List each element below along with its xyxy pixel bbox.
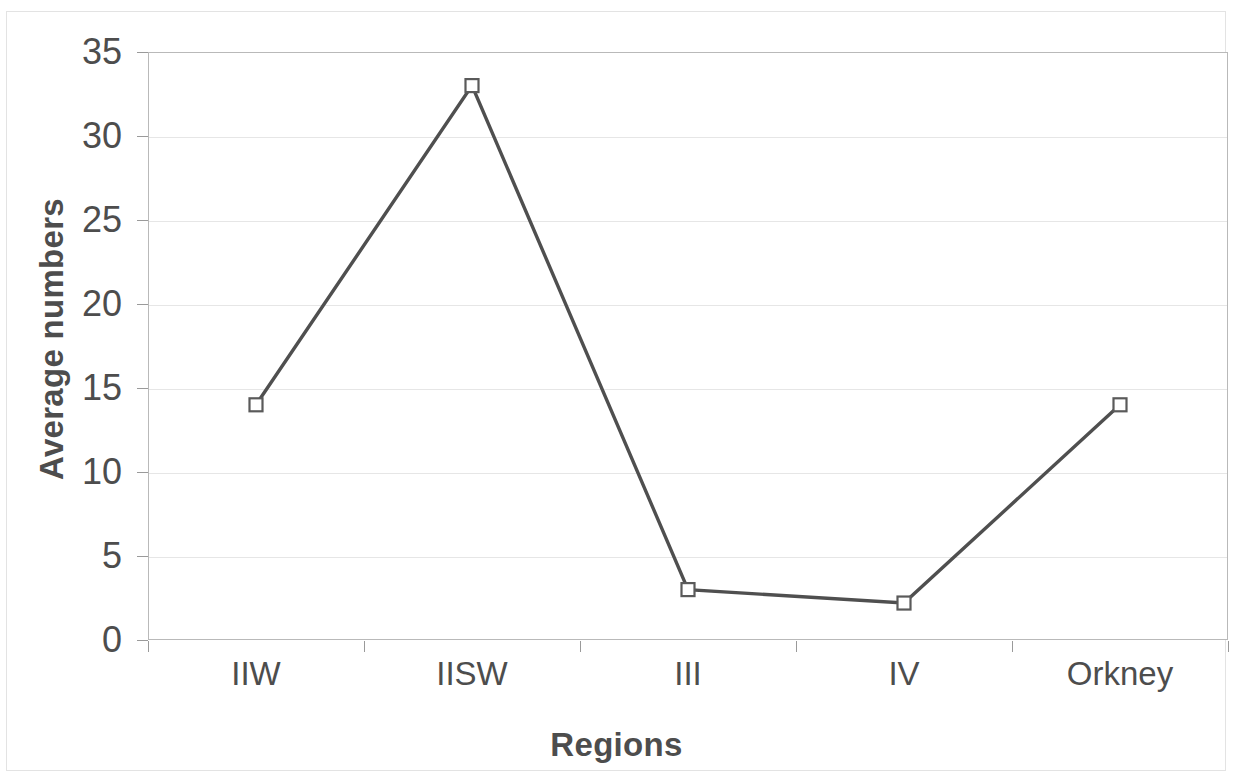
y-tick-mark <box>137 220 148 221</box>
y-tick-label: 35 <box>12 31 122 73</box>
y-tick-label: 25 <box>12 199 122 241</box>
plot-area <box>148 52 1228 640</box>
y-tick-mark <box>137 136 148 137</box>
x-tick-label: IV <box>888 655 919 693</box>
y-tick-label: 5 <box>12 535 122 577</box>
gridline <box>149 137 1227 138</box>
x-tick-mark <box>364 641 365 652</box>
gridline <box>149 473 1227 474</box>
gridline <box>149 305 1227 306</box>
x-tick-mark <box>1228 641 1229 652</box>
y-tick-mark <box>137 52 148 53</box>
y-tick-label: 15 <box>12 367 122 409</box>
x-tick-mark <box>580 641 581 652</box>
y-tick-mark <box>137 472 148 473</box>
y-tick-label: 10 <box>12 451 122 493</box>
x-tick-mark <box>1012 641 1013 652</box>
y-tick-label: 30 <box>12 115 122 157</box>
gridline <box>149 557 1227 558</box>
x-tick-mark <box>148 641 149 652</box>
x-tick-label: IISW <box>436 655 508 693</box>
y-tick-mark <box>137 388 148 389</box>
x-tick-label: III <box>674 655 702 693</box>
y-tick-label: 0 <box>12 619 122 661</box>
y-tick-mark <box>137 640 148 641</box>
gridline <box>149 389 1227 390</box>
y-tick-mark <box>137 304 148 305</box>
chart-figure: Average numbers Regions 05101520253035 I… <box>0 0 1233 779</box>
gridline <box>149 221 1227 222</box>
y-tick-label: 20 <box>12 283 122 325</box>
y-tick-mark <box>137 556 148 557</box>
x-tick-label: IIW <box>231 655 280 693</box>
x-axis-title: Regions <box>0 726 1233 764</box>
x-tick-mark <box>796 641 797 652</box>
x-tick-label: Orkney <box>1067 655 1173 693</box>
